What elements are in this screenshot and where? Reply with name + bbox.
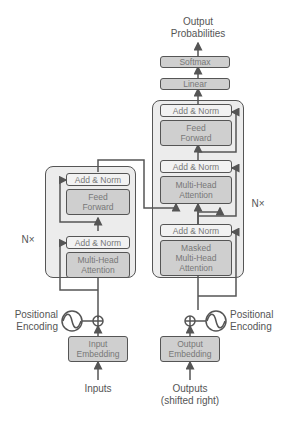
output-embedding-box: Output Embedding [160,336,220,362]
decoder-repeat-label: N× [248,198,268,210]
output-label-line1: Output [158,16,238,28]
inputs-label: Inputs [68,383,128,395]
decoder-masked-attention-box: Masked Multi-Head Attention [160,240,232,276]
encoder-positional-label: Positional Encoding [2,309,58,333]
enc-pos-line1: Positional [2,309,58,321]
linear-box: Linear [160,78,230,90]
output-label-line2: Probabilities [158,28,238,40]
encoder-attn-line2: Attention [81,265,115,275]
decoder-add-norm-bottom-label: Add & Norm [173,226,219,236]
connector-lines [0,0,292,427]
encoder-feed-forward-box: Feed Forward [66,189,130,215]
softmax-label: Softmax [179,57,210,67]
linear-label: Linear [183,79,207,89]
decoder-cross-attn-line1: Multi-Head [175,180,216,190]
encoder-repeat-label: N× [18,234,38,246]
input-emb-line1: Input [89,339,108,349]
masked-attn-line3: Attention [179,263,213,273]
decoder-cross-attention-box: Multi-Head Attention [160,176,232,204]
masked-attn-line1: Masked [181,243,211,253]
enc-pos-line2: Encoding [2,321,58,333]
dec-pos-line1: Positional [230,309,286,321]
softmax-box: Softmax [160,56,230,68]
outputs-line1: Outputs [150,383,230,395]
decoder-add-norm-mid-label: Add & Norm [173,162,219,172]
encoder-attn-line1: Multi-Head [77,255,118,265]
decoder-add-norm-bottom: Add & Norm [160,224,232,237]
output-probabilities-label: Output Probabilities [158,16,238,40]
decoder-positional-label: Positional Encoding [230,309,286,333]
dec-pos-line2: Encoding [230,321,286,333]
outputs-line2: (shifted right) [150,395,230,407]
encoder-add-norm-bottom: Add & Norm [66,236,130,249]
output-emb-line2: Embedding [168,349,211,359]
encoder-add-norm-top: Add & Norm [66,173,130,186]
encoder-ff-line2: Forward [82,202,113,212]
decoder-cross-attn-line2: Attention [179,190,213,200]
masked-attn-line2: Multi-Head [175,253,216,263]
encoder-add-norm-top-label: Add & Norm [75,175,121,185]
encoder-attention-box: Multi-Head Attention [66,252,130,278]
encoder-add-norm-bottom-label: Add & Norm [75,238,121,248]
encoder-ff-line1: Feed [88,192,107,202]
output-emb-line1: Output [177,339,203,349]
decoder-ff-line1: Feed [186,123,205,133]
input-emb-line2: Embedding [76,349,119,359]
input-embedding-box: Input Embedding [68,336,128,362]
decoder-add-norm-mid: Add & Norm [160,160,232,173]
decoder-add-norm-top-label: Add & Norm [173,106,219,116]
outputs-label: Outputs (shifted right) [150,383,230,407]
decoder-add-norm-top: Add & Norm [160,104,232,117]
decoder-ff-line2: Forward [180,133,211,143]
decoder-feed-forward-box: Feed Forward [160,120,232,146]
